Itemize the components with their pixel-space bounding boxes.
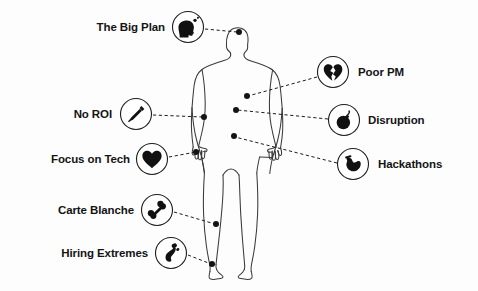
anchor-dot-hackathons — [231, 133, 237, 139]
anchor-dot-disruption — [233, 107, 239, 113]
anchor-dot-the-big-plan — [236, 29, 242, 35]
badge-carte-blanche[interactable] — [142, 195, 173, 226]
badge-disruption[interactable] — [329, 105, 360, 136]
badge-no-roi[interactable] — [121, 99, 152, 130]
badge-poor-pm[interactable] — [318, 57, 349, 88]
anchor-dot-poor-pm — [244, 93, 250, 99]
diagram-canvas: The Big Plan No ROI Focus on Tech Carte … — [0, 0, 478, 291]
badge-hackathons[interactable] — [338, 149, 369, 180]
callout-label-hiring-extremes[interactable]: Hiring Extremes — [61, 248, 148, 260]
connector-carte-blanche — [174, 212, 215, 224]
connector-focus-on-tech — [169, 152, 196, 157]
callout-label-focus-on-tech[interactable]: Focus on Tech — [51, 154, 130, 166]
human-body-outline — [191, 28, 282, 280]
anchor-dot-focus-on-tech — [193, 149, 199, 155]
anchor-dot-no-roi — [201, 114, 207, 120]
badge-the-big-plan[interactable] — [173, 12, 204, 43]
callout-label-carte-blanche[interactable]: Carte Blanche — [58, 205, 134, 217]
connector-hackathons — [235, 137, 337, 163]
callout-label-the-big-plan[interactable]: The Big Plan — [97, 22, 165, 34]
badge-focus-on-tech[interactable] — [137, 144, 168, 175]
anchor-dot-hiring-extremes — [209, 261, 215, 267]
connector-no-roi — [153, 115, 203, 117]
connector-lines — [153, 29, 337, 264]
callout-label-hackathons[interactable]: Hackathons — [378, 159, 442, 171]
icon-badges — [121, 12, 369, 269]
callout-label-disruption[interactable]: Disruption — [368, 115, 425, 127]
callout-label-poor-pm[interactable]: Poor PM — [358, 67, 404, 79]
badge-hiring-extremes[interactable] — [156, 238, 187, 269]
anchor-dot-carte-blanche — [213, 221, 219, 227]
callout-label-no-roi[interactable]: No ROI — [74, 109, 112, 121]
connector-hiring-extremes — [188, 255, 211, 264]
connector-poor-pm — [248, 77, 317, 96]
